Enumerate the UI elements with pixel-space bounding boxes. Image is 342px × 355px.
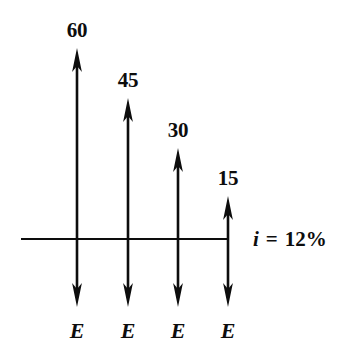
period-1-amount-label: 60	[67, 20, 87, 41]
period-3-group	[173, 148, 183, 307]
period-4-group	[223, 196, 233, 307]
interest-rate-equals: =	[266, 227, 278, 251]
period-4-outflow-label: E	[221, 320, 236, 342]
interest-rate-label: i=12%	[253, 229, 327, 250]
period-3-outflow-label: E	[171, 320, 186, 342]
period-2-amount-label: 45	[118, 70, 138, 91]
period-4-amount-label: 15	[218, 168, 238, 189]
period-1-group	[72, 48, 82, 307]
period-2-outflow-label: E	[121, 320, 136, 342]
cash-flow-diagram: 60 45 30 15 E E E E i=12%	[0, 0, 342, 355]
interest-rate-symbol: i	[253, 227, 259, 251]
cash-flow-svg	[0, 0, 342, 355]
period-1-outflow-label: E	[70, 320, 85, 342]
period-3-amount-label: 30	[168, 120, 188, 141]
period-2-group	[123, 98, 133, 307]
interest-rate-value: 12%	[285, 227, 327, 251]
